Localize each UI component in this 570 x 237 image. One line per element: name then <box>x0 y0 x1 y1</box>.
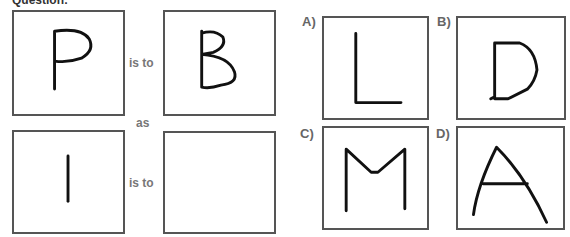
analogy-box-i <box>12 130 125 234</box>
option-c-label: C) <box>300 126 314 141</box>
letter-m-drawing <box>324 128 427 228</box>
option-b-box[interactable] <box>456 16 566 120</box>
answer-box-empty[interactable] <box>163 131 276 234</box>
analogy-box-b <box>163 10 276 116</box>
option-d-label: D) <box>436 126 450 141</box>
analogy-box-p <box>12 10 125 116</box>
letter-i-drawing <box>14 132 123 232</box>
option-b-label: B) <box>437 14 451 29</box>
letter-a-drawing <box>458 128 563 228</box>
option-a-box[interactable] <box>322 16 429 120</box>
is-to-label-2: is to <box>129 176 154 190</box>
letter-l-drawing <box>324 18 427 118</box>
letter-b-drawing <box>165 12 274 114</box>
option-d-box[interactable] <box>456 126 565 230</box>
letter-d-drawing <box>458 18 564 118</box>
letter-p-drawing <box>14 12 123 114</box>
is-to-label-1: is to <box>129 56 154 70</box>
as-label: as <box>136 116 149 130</box>
question-header-partial: Question: <box>12 0 68 7</box>
option-a-label: A) <box>302 14 316 29</box>
option-c-box[interactable] <box>322 126 429 230</box>
